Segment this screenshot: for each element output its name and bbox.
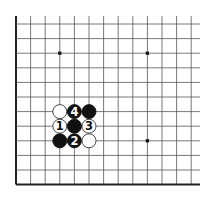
black-stone <box>67 119 81 133</box>
black-stone-2: 2 <box>67 134 81 148</box>
white-stone <box>82 134 96 148</box>
move-number-label: 4 <box>70 105 78 119</box>
white-stone <box>53 105 67 119</box>
stone-circle <box>82 134 96 148</box>
go-board: 4132 <box>0 0 212 199</box>
move-number-label: 2 <box>70 134 78 148</box>
white-stone-3: 3 <box>82 119 96 133</box>
stone-circle <box>53 105 67 119</box>
grid-lines <box>16 16 200 185</box>
move-number-label: 3 <box>85 119 93 133</box>
stone-circle <box>82 105 96 119</box>
black-stone <box>53 134 67 148</box>
star-point <box>58 52 61 55</box>
white-stone-1: 1 <box>53 119 67 133</box>
star-point <box>146 52 149 55</box>
star-point <box>146 139 149 142</box>
stone-circle <box>53 134 67 148</box>
black-stone-4: 4 <box>67 105 81 119</box>
stones: 4132 <box>53 105 96 148</box>
move-number-label: 1 <box>56 119 64 133</box>
stone-circle <box>67 119 81 133</box>
black-stone <box>82 105 96 119</box>
